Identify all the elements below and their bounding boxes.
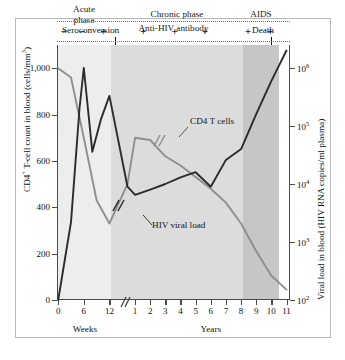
y-right-tick-1e6 — [290, 68, 295, 69]
antibody-sign-8: + — [267, 26, 273, 37]
x-tick-y5 — [196, 300, 197, 305]
y-left-ticklabel-200: 200 — [37, 249, 51, 259]
x-tick-y3 — [165, 300, 166, 305]
x-ticklabel-y3: 3 — [163, 306, 168, 316]
cd4-curve-break-marker — [154, 135, 165, 146]
x-tick-y1 — [135, 300, 136, 305]
y-axis-left-title-exp: 3 — [20, 50, 27, 53]
cd4-curve-label: CD4 T cells — [190, 116, 234, 126]
y-right-ticklabel-1e4-exp: 4 — [306, 178, 309, 185]
y-right-ticklabel-1e2-exp: 2 — [306, 294, 309, 301]
antibody-sign-1: − — [61, 26, 67, 37]
y-left-ticklabel-0: 0 — [46, 295, 51, 305]
x-tick-y9 — [256, 300, 257, 305]
y-left-ticklabel-1000: 1,000 — [30, 63, 50, 73]
viral-curve-label: HIV viral load — [152, 220, 205, 230]
x-ticklabel-y11: 11 — [282, 306, 291, 316]
x-ticklabel-y6: 6 — [209, 306, 214, 316]
phase-label-acute-line1: Acute — [73, 4, 95, 14]
plot-area: Acute phase Chronic phase AIDS Anti-HIV … — [57, 45, 290, 300]
x-ticklabel-y5: 5 — [193, 306, 198, 316]
y-right-ticklabel-1e4: 104 — [297, 178, 309, 190]
antibody-sign-2: − — [80, 26, 86, 37]
antibody-sign-6: + — [202, 26, 208, 37]
phase-label-aids: AIDS — [243, 9, 279, 20]
x-tick-y6 — [211, 300, 212, 305]
antibody-sign-7: + — [245, 26, 251, 37]
y-axis-left-title-end: ) — [22, 47, 32, 50]
x-tick-y4 — [180, 300, 181, 305]
y-axis-left-title-rest: T-cell count in blood (cells/mm — [22, 53, 32, 171]
y-axis-left-title: CD4+ T-cell count in blood (cells/mm3) — [20, 47, 32, 192]
x-tick-y8 — [241, 300, 242, 305]
y-left-ticklabel-600: 600 — [37, 156, 51, 166]
y-right-ticklabel-1e6: 106 — [297, 62, 309, 74]
y-axis-left-title-cd4: CD4 — [22, 175, 32, 192]
y-left-ticklabel-800: 800 — [37, 110, 51, 120]
x-ticklabel-y8: 8 — [239, 306, 244, 316]
viral-label-leader-line — [143, 215, 152, 225]
y-axis-left-title-plus: + — [20, 171, 27, 175]
y-right-tick-1e4 — [290, 184, 295, 185]
x-ticklabel-w6: 6 — [82, 306, 87, 316]
y-right-ticklabel-1e2: 102 — [297, 294, 309, 306]
x-tick-w6 — [84, 300, 85, 305]
y-left-ticklabel-400: 400 — [37, 202, 51, 212]
x-tick-y10 — [271, 300, 272, 305]
antibody-strip-top-rule — [57, 21, 290, 22]
x-axis-group-years: Years — [201, 324, 222, 334]
y-right-ticklabel-1e3: 103 — [297, 236, 309, 248]
y-left-tick-0 — [52, 300, 57, 301]
antibody-sign-4: + — [140, 26, 146, 37]
y-right-ticklabel-1e5: 105 — [297, 120, 309, 132]
x-tick-y7 — [226, 300, 227, 305]
y-right-tick-1e5 — [290, 126, 295, 127]
x-ticklabel-y4: 4 — [178, 306, 183, 316]
x-ticklabel-w0: 0 — [56, 306, 61, 316]
phase-label-chronic: Chronic phase — [111, 9, 243, 20]
curves-layer — [57, 45, 290, 300]
x-tick-y11 — [287, 300, 288, 305]
x-tick-w12 — [109, 300, 110, 305]
x-axis-group-weeks: Weeks — [73, 324, 97, 334]
y-right-ticklabel-1e3-exp: 3 — [306, 236, 309, 243]
x-ticklabel-w12: 12 — [105, 306, 114, 316]
cd4-label-leader-line — [179, 127, 188, 137]
x-tick-y2 — [150, 300, 151, 305]
y-right-ticklabel-1e6-base: 10 — [297, 64, 306, 74]
x-ticklabel-y2: 2 — [148, 306, 153, 316]
figure-root: Seroconversion Death Acute phase Chronic… — [0, 0, 345, 360]
y-right-ticklabel-1e5-base: 10 — [297, 122, 306, 132]
antibody-sign-3: + — [101, 26, 107, 37]
y-right-ticklabel-1e2-base: 10 — [297, 296, 306, 306]
y-right-ticklabel-1e6-exp: 6 — [306, 62, 309, 69]
y-axis-right-title: Viral load in blood (HIV RNA copies/ml p… — [316, 119, 326, 300]
antibody-strip-bottom-rule — [57, 41, 290, 42]
x-ticklabel-y10: 10 — [267, 306, 276, 316]
y-right-ticklabel-1e3-base: 10 — [297, 238, 306, 248]
y-right-ticklabel-1e4-base: 10 — [297, 180, 306, 190]
y-right-tick-1e2 — [290, 300, 295, 301]
antibody-sign-5: + — [172, 26, 178, 37]
x-ticklabel-y1: 1 — [133, 306, 138, 316]
x-ticklabel-y9: 9 — [254, 306, 259, 316]
y-right-ticklabel-1e5-exp: 5 — [306, 120, 309, 127]
x-ticklabel-y7: 7 — [224, 306, 229, 316]
y-right-tick-1e3 — [290, 242, 295, 243]
cd4-t-cells-curve — [58, 68, 286, 289]
